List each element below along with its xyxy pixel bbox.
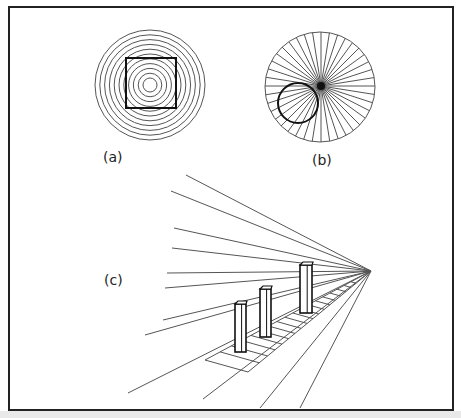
figure-frame [9,7,453,410]
convergence-point [317,82,325,90]
pillar [260,286,272,337]
panel-a-label: (a) [103,149,123,165]
figure-canvas: (a) (b) (c) [0,0,461,418]
panel-c-label: (c) [104,272,123,288]
bottom-band [0,411,461,418]
panel-b-label: (b) [312,152,332,168]
pillar [235,301,247,352]
pillar [300,262,313,313]
